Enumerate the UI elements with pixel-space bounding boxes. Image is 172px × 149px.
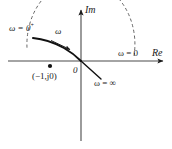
omega-zero-plus-superscript: + [30,22,33,28]
label-real-axis: Re [152,48,163,58]
critical-point-marker [48,64,52,68]
omega-zero-plus-text: ω = 0 [9,23,30,33]
label-omega-infinity: ω = ∞ [94,79,116,88]
direction-arrow-icon [51,41,70,50]
nyquist-diagram: ω = 0+ ω Im Re ω = 0 ω = ∞ (−1,j0) 0 [0,0,172,149]
nyquist-locus-curve [33,38,81,61]
label-origin: 0 [73,66,78,75]
label-critical-point: (−1,j0) [32,72,57,81]
label-omega-direction: ω [55,27,61,36]
label-omega-zero-plus: ω = 0+ [9,22,34,33]
omega-infinity-asymptote [81,61,101,79]
label-omega-zero: ω = 0 [118,49,138,58]
label-imaginary-axis: Im [85,5,96,15]
